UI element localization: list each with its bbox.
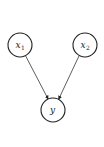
node-y: y <box>41 98 65 122</box>
node-x1: x1 <box>8 33 32 57</box>
node-x2: x2 <box>73 33 97 57</box>
edge-x2-to-y <box>59 56 80 100</box>
node-y-label: y <box>49 105 56 115</box>
graphical-model-diagram: x1 x2 y <box>0 0 104 147</box>
edge-x1-to-y <box>26 56 49 99</box>
